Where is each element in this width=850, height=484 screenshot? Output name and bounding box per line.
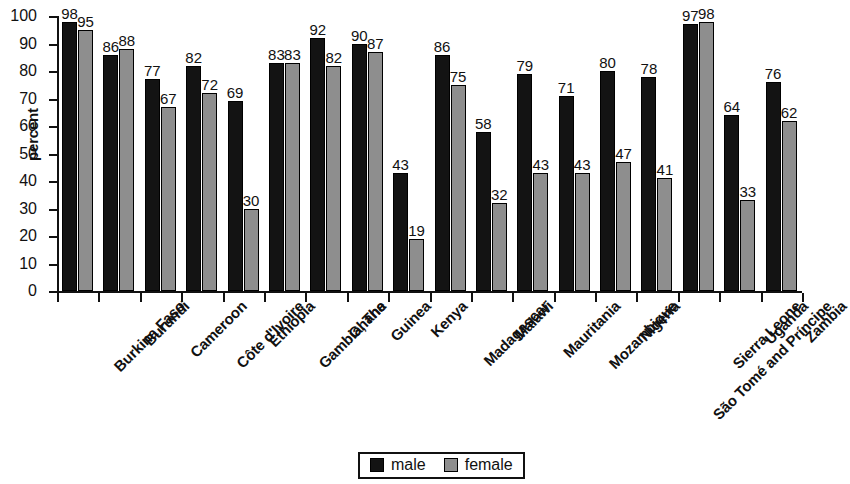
bar-female[interactable]: 72 [202,93,217,291]
y-axis-tick-label: 10 [0,256,37,272]
bar-value-label: 88 [119,33,136,48]
bar-value-label: 82 [325,50,342,65]
bar-male[interactable]: 71 [559,96,574,291]
bar-female[interactable]: 62 [782,121,797,292]
y-axis-tick [49,291,57,293]
chart-legend: malefemale [358,452,525,479]
bar-value-label: 98 [698,6,715,21]
bar-male[interactable]: 58 [476,132,491,292]
y-axis-tick [49,99,57,101]
bar-value-label: 47 [615,146,632,161]
bar-group: 8383 [268,16,301,291]
bar-male[interactable]: 78 [641,77,656,292]
bar-group: 9087 [351,16,384,291]
bar-value-label: 78 [641,61,658,76]
bar-value-label: 97 [682,8,699,23]
y-axis-tick [49,181,57,183]
x-axis-tick [636,293,638,302]
bar-male[interactable]: 86 [435,55,450,292]
x-axis-tick [264,293,266,302]
bar-female[interactable]: 41 [657,178,672,291]
bar-group: 7943 [516,16,549,291]
x-axis-tick [98,293,100,302]
legend-item-female[interactable]: female [444,457,513,473]
bar-male[interactable]: 79 [517,74,532,291]
bar-value-label: 77 [144,63,161,78]
x-axis-tick [719,293,721,302]
bar-male[interactable]: 77 [145,79,160,291]
y-axis-tick-label: 40 [0,173,37,189]
bar-value-label: 43 [392,157,409,172]
bar-value-label: 69 [227,85,244,100]
bar-male[interactable]: 69 [228,101,243,291]
x-axis-tick [678,293,680,302]
bar-value-label: 83 [268,47,285,62]
bar-group: 8675 [434,16,467,291]
bar-female[interactable]: 43 [533,173,548,291]
bar-female[interactable]: 47 [616,162,631,291]
bar-female[interactable]: 30 [244,209,259,292]
bar-female[interactable]: 98 [699,22,714,292]
x-axis-label: Kenya [428,298,470,340]
bar-female[interactable]: 43 [575,173,590,291]
bar-value-label: 82 [185,50,202,65]
bar-value-label: 64 [723,99,740,114]
bar-female[interactable]: 83 [285,63,300,291]
bar-female[interactable]: 32 [492,203,507,291]
bar-group: 7662 [765,16,798,291]
x-axis-label: Guinea [388,298,434,344]
bar-value-label: 79 [516,58,533,73]
bar-female[interactable]: 95 [78,30,93,291]
bar-value-label: 83 [284,47,301,62]
x-axis-label: Ghana [345,298,388,341]
y-axis-tick [49,209,57,211]
y-axis-tick [49,264,57,266]
bar-group: 8272 [185,16,218,291]
y-axis-tick-label: 100 [0,8,37,24]
y-axis-tick-label: 20 [0,228,37,244]
bar-female[interactable]: 87 [368,52,383,291]
x-axis-tick [140,293,142,302]
bar-male[interactable]: 82 [186,66,201,292]
bar-female[interactable]: 19 [409,239,424,291]
bar-value-label: 86 [103,39,120,54]
bar-female[interactable]: 75 [451,85,466,291]
bar-group: 7767 [144,16,177,291]
bar-male[interactable]: 64 [724,115,739,291]
bar-group: 5832 [475,16,508,291]
bar-group: 7841 [640,16,673,291]
bar-group: 6930 [227,16,260,291]
x-axis-tick [388,293,390,302]
bar-male[interactable]: 80 [600,71,615,291]
bar-value-label: 86 [434,39,451,54]
bar-male[interactable]: 43 [393,173,408,291]
bar-male[interactable]: 76 [766,82,781,291]
bar-female[interactable]: 67 [161,107,176,291]
legend-item-male[interactable]: male [370,457,426,473]
x-axis-tick [471,293,473,302]
x-axis-tick [430,293,432,302]
bar-male[interactable]: 97 [683,24,698,291]
bar-male[interactable]: 83 [269,63,284,291]
bar-female[interactable]: 88 [119,49,134,291]
bar-male[interactable]: 86 [103,55,118,292]
bar-male[interactable]: 90 [352,44,367,292]
bar-value-label: 30 [243,193,260,208]
bar-group: 7143 [558,16,591,291]
y-axis-tick [49,16,57,18]
bar-value-label: 43 [532,157,549,172]
x-axis-tick [223,293,225,302]
y-axis-tick-label: 50 [0,146,37,162]
y-axis-tick [49,154,57,156]
bar-female[interactable]: 82 [326,66,341,292]
bar-value-label: 62 [781,105,798,120]
bar-value-label: 90 [351,28,368,43]
x-axis-tick [554,293,556,302]
y-axis-tick-label: 90 [0,36,37,52]
bar-value-label: 98 [61,6,78,21]
bar-male[interactable]: 92 [310,38,325,291]
y-axis-tick [49,126,57,128]
bar-female[interactable]: 33 [740,200,755,291]
bar-male[interactable]: 98 [62,22,77,292]
